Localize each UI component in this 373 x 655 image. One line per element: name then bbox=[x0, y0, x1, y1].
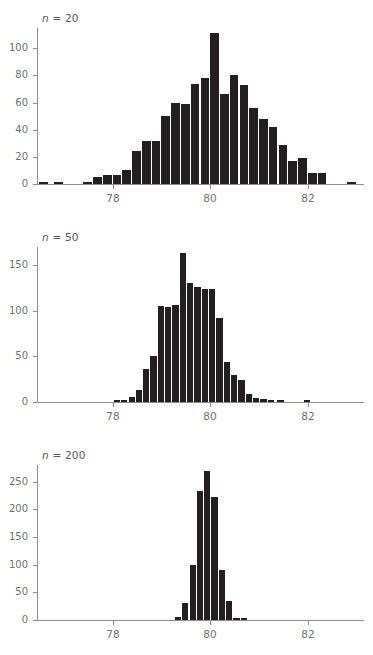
x-tick-label: 80 bbox=[190, 629, 230, 640]
x-tick bbox=[210, 403, 211, 407]
y-tick-label: 150 bbox=[0, 260, 28, 270]
histogram-bar bbox=[246, 394, 252, 402]
x-tick bbox=[210, 185, 211, 189]
histogram-bar bbox=[132, 151, 141, 184]
x-tick bbox=[210, 621, 211, 625]
y-tick bbox=[33, 75, 37, 76]
histogram-bar bbox=[277, 400, 283, 402]
y-tick-label: 100 bbox=[0, 560, 28, 570]
histogram-bar bbox=[165, 307, 171, 402]
histogram-bar bbox=[171, 103, 180, 184]
y-tick bbox=[33, 265, 37, 266]
histogram-bar bbox=[190, 565, 196, 620]
y-tick-label: 60 bbox=[0, 98, 28, 108]
histogram-bar bbox=[180, 253, 186, 402]
y-tick-label: 0 bbox=[0, 615, 28, 625]
panel-label-1: n = 50 bbox=[42, 231, 79, 243]
histogram-bar bbox=[268, 400, 274, 402]
histogram-bar bbox=[114, 400, 120, 402]
histogram-bar bbox=[204, 471, 210, 620]
histogram-bar bbox=[233, 618, 239, 620]
histogram-bar bbox=[83, 182, 92, 184]
histogram-bar bbox=[142, 141, 151, 184]
y-tick bbox=[33, 130, 37, 131]
histogram-bar bbox=[187, 283, 193, 402]
y-tick bbox=[33, 509, 37, 510]
histogram-bar bbox=[113, 175, 122, 185]
histogram-bar bbox=[288, 161, 297, 184]
panel-label-0: n = 20 bbox=[42, 12, 79, 24]
x-tick bbox=[113, 185, 114, 189]
y-tick bbox=[33, 537, 37, 538]
y-axis-line bbox=[37, 465, 38, 621]
y-tick bbox=[33, 311, 37, 312]
x-tick bbox=[308, 185, 309, 189]
histogram-bar bbox=[216, 318, 222, 402]
panel-label-value: = 20 bbox=[49, 12, 79, 24]
histogram-bar bbox=[121, 400, 127, 402]
panel-label-variable: n bbox=[42, 12, 49, 24]
y-tick bbox=[33, 620, 37, 621]
histogram-bar bbox=[210, 33, 219, 184]
y-tick-label: 200 bbox=[0, 504, 28, 514]
x-tick-label: 82 bbox=[288, 193, 328, 204]
histogram-bar bbox=[158, 306, 164, 402]
x-axis-line bbox=[37, 184, 364, 185]
histogram-bar bbox=[259, 119, 268, 184]
y-tick-label: 0 bbox=[0, 179, 28, 189]
y-axis-line bbox=[37, 247, 38, 403]
y-axis-line bbox=[37, 28, 38, 185]
y-tick-label: 150 bbox=[0, 532, 28, 542]
histogram-bar bbox=[122, 170, 131, 184]
histogram-bar bbox=[298, 158, 307, 184]
histogram-bar bbox=[224, 362, 230, 402]
histogram-bar bbox=[194, 287, 200, 402]
histogram-bar bbox=[93, 177, 102, 184]
y-tick bbox=[33, 103, 37, 104]
histogram-bar bbox=[129, 397, 135, 402]
y-tick-label: 100 bbox=[0, 306, 28, 316]
x-tick-label: 82 bbox=[288, 629, 328, 640]
histogram-bar bbox=[260, 399, 266, 402]
x-tick-label: 80 bbox=[190, 193, 230, 204]
y-tick bbox=[33, 482, 37, 483]
y-tick-label: 40 bbox=[0, 125, 28, 135]
y-tick bbox=[33, 356, 37, 357]
histogram-bar bbox=[54, 182, 63, 184]
chart-panel-0: n = 20020406080100788082 bbox=[0, 0, 373, 218]
chart-panel-2: n = 200050100150200250788082 bbox=[0, 437, 373, 655]
x-tick-label: 78 bbox=[93, 411, 133, 422]
histogram-bar bbox=[202, 289, 208, 402]
y-tick-label: 80 bbox=[0, 70, 28, 80]
chart-panel-1: n = 50050100150788082 bbox=[0, 218, 373, 437]
histogram-bar bbox=[103, 175, 112, 185]
y-tick-label: 100 bbox=[0, 43, 28, 53]
histogram-bar bbox=[220, 94, 229, 184]
histogram-bar bbox=[347, 182, 356, 184]
histogram-bar bbox=[197, 491, 203, 620]
histogram-bar bbox=[143, 369, 149, 402]
panel-label-variable: n bbox=[42, 449, 49, 461]
histogram-bar bbox=[279, 145, 288, 184]
y-tick-label: 20 bbox=[0, 152, 28, 162]
histogram-bar bbox=[240, 85, 249, 184]
histogram-bar bbox=[152, 141, 161, 184]
panel-label-value: = 200 bbox=[49, 449, 86, 461]
histogram-bar bbox=[181, 104, 190, 184]
panel-label-2: n = 200 bbox=[42, 449, 86, 461]
x-tick-label: 82 bbox=[288, 411, 328, 422]
histogram-bar bbox=[175, 617, 181, 620]
histogram-bar bbox=[269, 127, 278, 184]
histogram-bar bbox=[191, 84, 200, 184]
histogram-bar bbox=[253, 398, 259, 402]
y-tick-label: 0 bbox=[0, 397, 28, 407]
histogram-figure: n = 20020406080100788082n = 500501001507… bbox=[0, 0, 373, 655]
x-tick-label: 80 bbox=[190, 411, 230, 422]
histogram-bar bbox=[172, 305, 178, 402]
histogram-bar bbox=[226, 601, 232, 620]
x-tick bbox=[113, 621, 114, 625]
x-axis-line bbox=[37, 402, 364, 403]
histogram-bar bbox=[161, 116, 170, 184]
x-tick bbox=[308, 621, 309, 625]
histogram-bar bbox=[209, 289, 215, 402]
